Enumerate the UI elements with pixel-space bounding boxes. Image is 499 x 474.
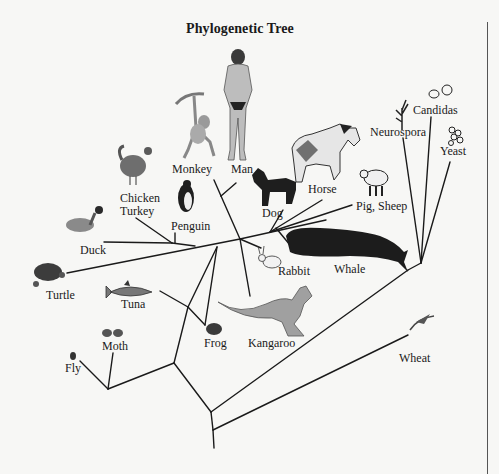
branch-wheat — [213, 335, 408, 430]
label-turtle: Turtle — [46, 289, 75, 302]
label-whale: Whale — [334, 263, 365, 276]
monkey-illustration — [176, 94, 214, 158]
label-monkey: Monkey — [172, 163, 212, 176]
horse-illustration — [292, 124, 360, 182]
branch-man — [221, 183, 236, 196]
tuna-illustration — [106, 280, 152, 298]
label-turkey: Turkey — [120, 205, 154, 218]
yeast-illustration — [449, 127, 464, 146]
label-pig-sheep: Pig, Sheep — [356, 200, 407, 213]
branch-root — [213, 430, 214, 448]
label-rabbit: Rabbit — [278, 265, 310, 278]
sheep-illustration — [360, 170, 388, 196]
label-frog: Frog — [204, 337, 227, 350]
label-dog: Dog — [262, 207, 283, 220]
label-horse: Horse — [308, 183, 337, 196]
label-duck: Duck — [80, 244, 106, 257]
kangaroo-illustration — [218, 286, 312, 336]
branch-animals — [174, 363, 211, 412]
label-kangaroo: Kangaroo — [248, 337, 295, 350]
label-yeast: Yeast — [440, 145, 466, 158]
branch-primates — [221, 196, 240, 239]
label-fly: Fly — [65, 362, 81, 375]
branch-insects — [108, 363, 174, 389]
branch-tuna — [160, 291, 188, 307]
moth-illustration — [102, 329, 123, 337]
branch-fly — [80, 361, 108, 389]
branch-duck — [104, 242, 172, 243]
man-illustration — [224, 49, 252, 160]
phylogenetic-tree — [0, 0, 499, 474]
label-penguin: Penguin — [171, 220, 210, 233]
label-tuna: Tuna — [121, 298, 145, 311]
label-neurospora: Neurospora — [370, 126, 426, 139]
branch-moth — [108, 353, 113, 389]
branch-chicken — [136, 218, 172, 243]
branch-yeast — [421, 162, 450, 263]
label-man: Man — [231, 163, 253, 176]
branch-frog — [188, 307, 205, 325]
branch-vertebrates — [174, 307, 188, 363]
dog-illustration — [252, 168, 296, 206]
label-moth: Moth — [102, 340, 128, 353]
label-wheat: Wheat — [399, 352, 430, 365]
chicken-illustration — [119, 146, 152, 185]
wheat-illustration — [410, 314, 434, 330]
branch-trunk — [211, 412, 213, 430]
penguin-illustration — [178, 180, 194, 212]
candidas-illustration — [429, 85, 452, 98]
turtle-illustration — [33, 263, 65, 287]
duck-illustration — [66, 206, 103, 232]
frog-illustration — [206, 323, 222, 335]
branch-kangaroo — [240, 239, 250, 296]
fly-illustration — [70, 352, 76, 360]
label-candidas: Candidas — [413, 104, 458, 117]
branch-monkey — [214, 180, 221, 196]
